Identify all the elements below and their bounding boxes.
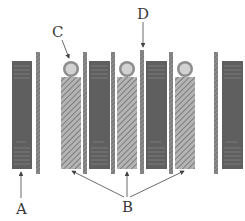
- arrow-b-left: [72, 171, 124, 197]
- thin-strip: [111, 52, 115, 174]
- arrow-b-right: [130, 171, 184, 197]
- dark-block: [146, 61, 167, 169]
- label-b: B: [122, 198, 133, 216]
- separator-diagram: C D A B: [0, 0, 245, 221]
- label-a: A: [15, 200, 27, 218]
- hatched-block: [117, 77, 137, 169]
- circle-element: [177, 61, 193, 77]
- dark-block: [89, 61, 110, 169]
- circle-element: [119, 61, 135, 77]
- thin-strip: [36, 52, 40, 174]
- thin-strip: [140, 50, 144, 174]
- circle-element: [63, 61, 79, 77]
- thin-strip: [214, 52, 218, 174]
- thin-strip: [169, 52, 173, 174]
- dark-block: [222, 61, 243, 169]
- hatched-block: [175, 77, 195, 169]
- hatched-block: [61, 77, 81, 169]
- label-c: C: [52, 23, 63, 41]
- dark-block: [12, 61, 32, 169]
- thin-strip: [83, 52, 87, 174]
- arrow-c: [62, 40, 69, 58]
- label-d: D: [137, 5, 149, 23]
